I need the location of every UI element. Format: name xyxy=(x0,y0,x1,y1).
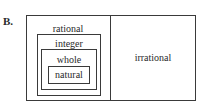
integer-label: integer xyxy=(55,39,83,49)
rational-label: rational xyxy=(53,24,84,34)
irrational-label: irrational xyxy=(135,53,172,63)
option-letter: B. xyxy=(3,15,13,27)
whole-label: whole xyxy=(57,55,81,65)
natural-label: natural xyxy=(55,70,83,80)
divider-line xyxy=(110,15,111,101)
